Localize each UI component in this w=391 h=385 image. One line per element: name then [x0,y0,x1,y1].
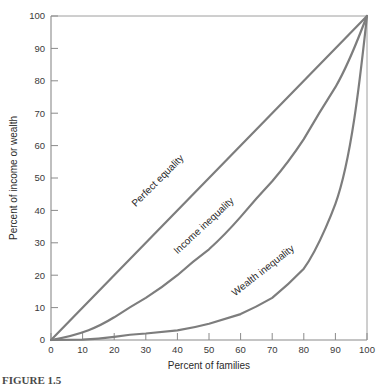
x-tick-label: 10 [77,344,88,355]
y-tick-label: 30 [34,237,45,248]
income-inequality-label: Income inequality [171,195,235,256]
curve-group [51,16,367,340]
x-tick-labels: 0 10 20 30 40 50 60 70 80 90 100 [48,344,375,355]
y-tick-marks [51,16,58,340]
y-tick-label: 40 [34,205,45,216]
x-axis-title: Percent of families [168,360,250,371]
y-tick-label: 70 [34,108,45,119]
perfect-equality-label: Perfect equality [129,152,186,209]
lorenz-curve-figure: 0 10 20 30 40 50 60 70 80 90 100 0 10 20… [0,0,391,385]
chart-canvas: 0 10 20 30 40 50 60 70 80 90 100 0 10 20… [0,0,391,385]
y-tick-labels: 0 10 20 30 40 50 60 70 80 90 100 [29,10,45,345]
y-tick-label: 100 [29,10,45,21]
x-tick-label: 70 [267,344,278,355]
y-tick-label: 10 [34,302,45,313]
x-tick-label: 0 [48,344,53,355]
y-tick-label: 50 [34,172,45,183]
x-tick-label: 100 [359,344,375,355]
perfect-equality-curve [51,16,367,340]
x-tick-label: 30 [141,344,152,355]
wealth-inequality-label: Wealth inequality [230,243,297,298]
x-tick-label: 40 [172,344,183,355]
x-tick-label: 80 [299,344,310,355]
y-tick-label: 20 [34,270,45,281]
figure-caption: FIGURE 1.5 [2,374,62,385]
x-tick-label: 20 [109,344,120,355]
x-tick-label: 90 [330,344,341,355]
y-axis-title: Percent of income or wealth [8,116,19,240]
y-tick-label: 0 [40,334,45,345]
y-tick-label: 60 [34,140,45,151]
y-tick-label: 80 [34,75,45,86]
x-tick-label: 50 [204,344,215,355]
x-tick-label: 60 [235,344,246,355]
y-tick-label: 90 [34,43,45,54]
